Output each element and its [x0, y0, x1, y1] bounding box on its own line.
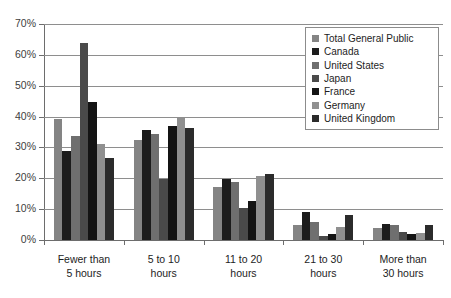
bar — [373, 228, 382, 240]
legend-swatch-icon — [312, 62, 319, 69]
legend-label: France — [324, 86, 355, 97]
y-axis-label: 20% — [15, 171, 36, 183]
legend-item: Japan — [312, 72, 433, 85]
bar — [168, 126, 177, 240]
legend-item: Canada — [312, 45, 433, 58]
y-axis-label: 10% — [15, 202, 36, 214]
legend-swatch-icon — [312, 115, 319, 122]
bar — [336, 227, 345, 240]
bar — [105, 158, 114, 240]
legend-label: United States — [324, 60, 384, 71]
x-axis-tick — [44, 240, 45, 245]
bar — [382, 224, 391, 240]
y-axis-label: 50% — [15, 79, 36, 91]
legend-item: United Kingdom — [312, 112, 433, 125]
legend-label: Total General Public — [324, 33, 414, 44]
bar — [222, 179, 231, 240]
bar — [345, 215, 354, 240]
x-axis-tick — [443, 240, 444, 245]
bar — [159, 179, 168, 240]
bar — [319, 236, 328, 240]
bar — [151, 134, 160, 240]
x-axis-category-label: More than 30 hours — [363, 252, 443, 280]
legend-label: Canada — [324, 46, 359, 57]
x-axis-tick — [204, 240, 205, 245]
bar — [399, 232, 408, 240]
bar — [231, 182, 240, 240]
bar — [177, 118, 186, 240]
legend-swatch-icon — [312, 48, 319, 55]
legend-item: Germany — [312, 98, 433, 111]
bar — [310, 222, 319, 241]
x-axis-tick — [283, 240, 284, 245]
legend-swatch-icon — [312, 75, 319, 82]
bar — [425, 225, 434, 240]
bar — [293, 225, 302, 240]
x-axis-line — [44, 240, 444, 241]
bar — [407, 234, 416, 240]
bar — [256, 176, 265, 240]
legend-label: United Kingdom — [324, 113, 395, 124]
y-axis-label: 40% — [15, 110, 36, 122]
legend-swatch-icon — [312, 35, 319, 42]
bar — [62, 151, 71, 240]
bar — [302, 212, 311, 240]
bar — [134, 140, 143, 240]
bar-chart: 0%10%20%30%40%50%60%70% Fewer than 5 hou… — [0, 0, 451, 298]
legend-item: United States — [312, 59, 433, 72]
bar — [248, 201, 257, 240]
legend-item: Total General Public — [312, 32, 433, 45]
chart-legend: Total General PublicCanadaUnited StatesJ… — [305, 27, 439, 130]
bar — [88, 102, 97, 240]
bar — [54, 119, 63, 240]
bar — [328, 234, 337, 240]
legend-label: Germany — [324, 100, 365, 111]
y-axis-label: 30% — [15, 140, 36, 152]
y-axis-label: 70% — [15, 17, 36, 29]
x-axis-category-label: 11 to 20 hours — [204, 252, 284, 280]
bar — [71, 136, 80, 240]
x-axis-tick — [124, 240, 125, 245]
legend-swatch-icon — [312, 88, 319, 95]
y-axis-label: 0% — [21, 233, 36, 245]
bar — [416, 233, 425, 240]
y-axis-label: 60% — [15, 48, 36, 60]
bar — [185, 128, 194, 240]
x-axis-category-label: 5 to 10 hours — [124, 252, 204, 280]
bar — [80, 43, 89, 240]
x-axis-category-label: 21 to 30 hours — [283, 252, 363, 280]
bar — [390, 225, 399, 240]
bar — [142, 130, 151, 240]
bar — [239, 208, 248, 240]
bar — [265, 174, 274, 240]
legend-swatch-icon — [312, 102, 319, 109]
bar-group — [204, 24, 284, 240]
bar-group — [44, 24, 124, 240]
legend-item: France — [312, 85, 433, 98]
bar — [97, 144, 106, 240]
x-axis-tick — [363, 240, 364, 245]
legend-label: Japan — [324, 73, 351, 84]
x-axis-category-label: Fewer than 5 hours — [44, 252, 124, 280]
bar — [213, 187, 222, 240]
bar-group — [124, 24, 204, 240]
